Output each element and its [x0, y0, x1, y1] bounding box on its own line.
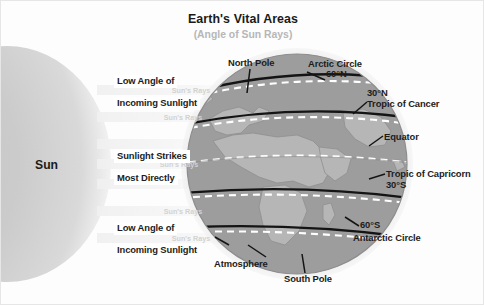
label-low-angle-bottom-line1: Low Angle of — [114, 222, 177, 235]
label-low-angle-top-line1: Low Angle of — [114, 75, 177, 88]
label-direct-line1: Sunlight Strikes — [114, 150, 190, 163]
page-title: Earth's Vital Areas — [1, 12, 484, 26]
sun-rays-text-upper-mid: Sun's Rays — [143, 113, 223, 122]
sun-label: Sun — [35, 158, 58, 172]
label-antarctic-latitude: 60°S — [360, 220, 380, 231]
label-south-pole: South Pole — [284, 274, 332, 285]
label-direct-line2: Most Directly — [114, 172, 178, 185]
page-subtitle: (Angle of Sun Rays) — [1, 29, 484, 40]
label-arctic-circle-latitude: 60°N — [326, 69, 347, 80]
label-tropic-cancer: Tropic of Cancer — [367, 99, 439, 110]
label-low-angle-top-line2: Incoming Sunlight — [114, 97, 200, 110]
label-equator: Equator — [384, 132, 419, 143]
label-north-pole: North Pole — [228, 58, 274, 69]
label-low-angle-bottom-line2: Incoming Sunlight — [114, 244, 200, 257]
label-antarctic-circle: Antarctic Circle — [353, 233, 421, 244]
label-tropic-cancer-latitude: 30°N — [367, 88, 388, 99]
label-atmosphere: Atmosphere — [214, 259, 268, 270]
diagram-root: Earth's Vital Areas (Angle of Sun Rays) … — [0, 0, 484, 305]
sun-rays-text-bottom: Sun's Rays — [151, 234, 231, 243]
label-tropic-capricorn: Tropic of Capricorn — [386, 169, 471, 180]
sun-rays-text-lower-mid: Sun's Rays — [143, 207, 223, 216]
label-tropic-capricorn-latitude: 30°S — [386, 180, 406, 191]
